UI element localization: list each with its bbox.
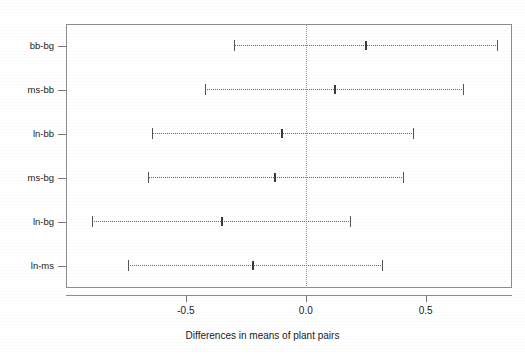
x-axis-tick (186, 295, 187, 302)
confidence-interval-ln-ms (128, 258, 382, 274)
interval-upper-cap (413, 128, 414, 139)
plot-frame (66, 24, 512, 288)
y-axis-label-ms-bb: ms-bb (4, 85, 54, 95)
y-axis-label-ln-bg: ln-bg (4, 217, 54, 227)
interval-lower-cap (152, 128, 153, 139)
mean-difference-marker (334, 85, 336, 94)
confidence-interval-ln-bg (92, 214, 351, 230)
mean-difference-marker (274, 173, 276, 182)
mean-difference-marker (221, 217, 223, 226)
confidence-interval-bb-bg (234, 38, 498, 54)
y-axis-label-ln-bb: ln-bb (4, 129, 54, 139)
y-axis-tick (58, 46, 66, 47)
figure-root: bb-bgms-bbln-bbms-bgln-bgln-ms -0.50.00.… (0, 0, 525, 359)
interval-line (128, 265, 382, 266)
interval-lower-cap (92, 216, 93, 227)
interval-upper-cap (497, 40, 498, 51)
interval-lower-cap (234, 40, 235, 51)
interval-lower-cap (128, 260, 129, 271)
x-axis-line (66, 295, 512, 296)
x-axis-tick-label: 0.5 (404, 305, 448, 316)
confidence-interval-ms-bg (148, 170, 405, 186)
interval-upper-cap (403, 172, 404, 183)
mean-difference-marker (365, 41, 367, 50)
y-axis-tick (58, 178, 66, 179)
interval-lower-cap (148, 172, 149, 183)
y-axis-label-ln-ms: ln-ms (4, 261, 54, 271)
mean-difference-marker (281, 129, 283, 138)
y-axis-tick (58, 90, 66, 91)
y-axis-label-bb-bg: bb-bg (4, 41, 54, 51)
interval-lower-cap (205, 84, 206, 95)
y-axis-label-ms-bg: ms-bg (4, 173, 54, 183)
x-axis-tick (306, 295, 307, 302)
confidence-interval-ln-bb (152, 126, 413, 142)
interval-line (152, 133, 413, 134)
x-axis-tick (426, 295, 427, 302)
interval-line (148, 177, 405, 178)
interval-upper-cap (350, 216, 351, 227)
zero-reference-line (306, 24, 307, 288)
interval-upper-cap (463, 84, 464, 95)
x-axis-tick-label: 0.0 (284, 305, 328, 316)
mean-difference-marker (252, 261, 254, 270)
confidence-interval-ms-bb (205, 82, 464, 98)
x-axis-tick-label: -0.5 (164, 305, 208, 316)
y-axis-tick (58, 222, 66, 223)
y-axis-tick (58, 134, 66, 135)
y-axis-tick (58, 266, 66, 267)
interval-upper-cap (382, 260, 383, 271)
x-axis-title: Differences in means of plant pairs (0, 330, 525, 341)
